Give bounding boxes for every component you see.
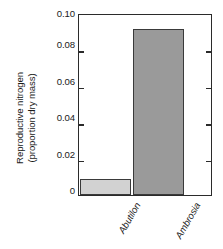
y-tick-label-2: 0.04 <box>15 113 75 123</box>
y-tick-label-4: 0.08 <box>15 40 75 50</box>
y-tick-label-3: 0.06 <box>15 77 75 87</box>
y-tick-mark-right-0.02 <box>206 161 211 162</box>
y-tick-mark-right-0.04 <box>206 124 211 125</box>
y-tick-mark-left-0.06 <box>79 88 84 89</box>
bar-abutilon <box>80 179 131 195</box>
plot-area <box>78 14 212 196</box>
y-tick-mark-right-0.06 <box>206 88 211 89</box>
y-tick-mark-right-0.08 <box>206 51 211 52</box>
bar-ambrosia <box>133 29 184 195</box>
y-tick-mark-left-0.08 <box>79 51 84 52</box>
y-tick-mark-left-0.02 <box>79 161 84 162</box>
y-tick-label-0: 0 <box>15 186 75 196</box>
bar-chart-figure: Reproductive nitrogen (proportion dry ma… <box>0 0 223 249</box>
y-tick-label-1: 0.02 <box>15 150 75 160</box>
y-tick-label-5: 0.10 <box>15 9 75 19</box>
x-tick-label-abutilon: Abutilon <box>117 201 143 235</box>
y-tick-mark-left-0.04 <box>79 124 84 125</box>
x-tick-label-ambrosia: Ambrosia <box>174 201 203 240</box>
